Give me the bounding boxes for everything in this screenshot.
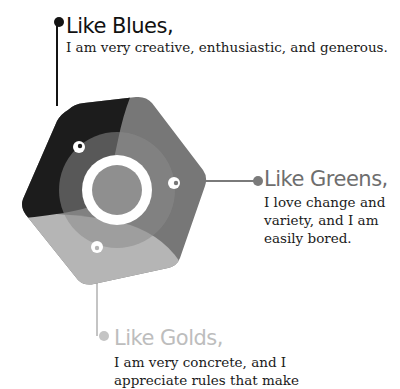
blues-heading: Like Blues, — [66, 14, 173, 38]
blues-description: I am very creative, enthusiastic, and ge… — [66, 38, 388, 56]
blue-connector-dot — [54, 17, 64, 27]
green-connector-dot — [253, 176, 263, 186]
gold-connector-dot — [99, 331, 109, 341]
golds-description: I am very concrete, and I appreciate rul… — [114, 353, 314, 389]
greens-description: I love change and variety, and I am easi… — [264, 193, 394, 247]
golds-heading: Like Golds, — [114, 326, 223, 350]
greens-heading: Like Greens, — [264, 167, 388, 191]
center-core — [92, 165, 142, 215]
